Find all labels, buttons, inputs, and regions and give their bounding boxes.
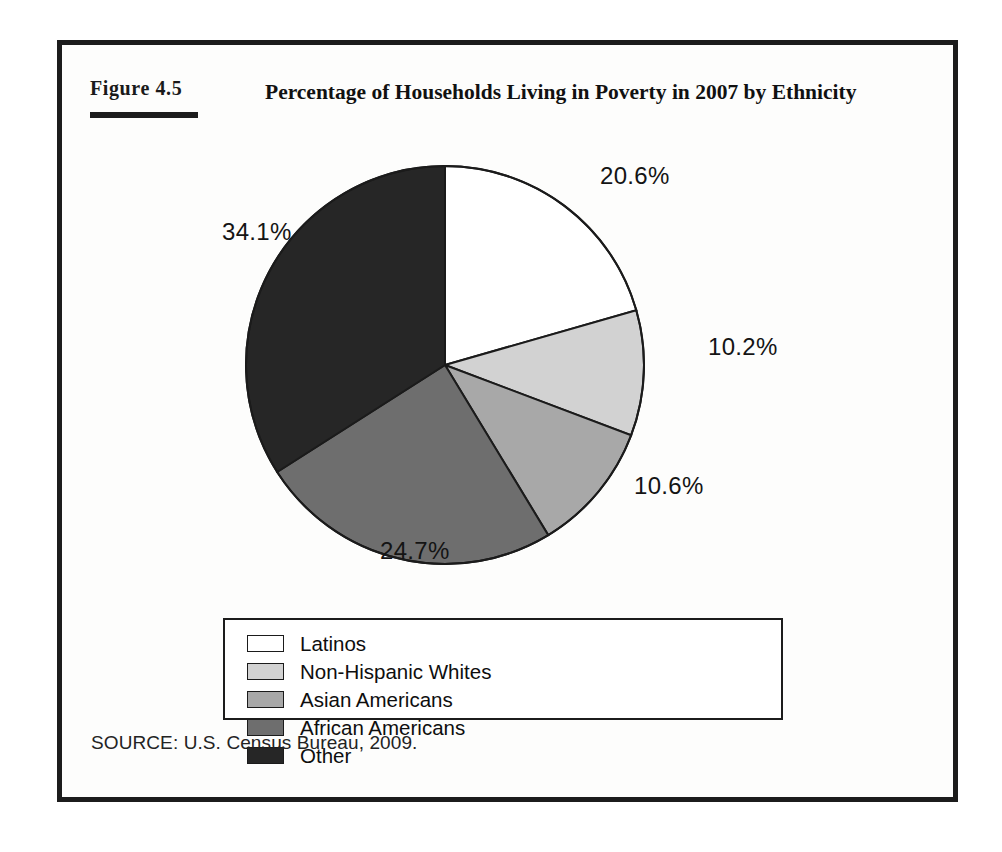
figure-frame: Figure 4.5 Percentage of Households Livi… [57, 40, 958, 802]
figure-rule-divider [90, 112, 198, 118]
figure-number-label: Figure 4.5 [90, 77, 265, 100]
pie-label-asian-americans: 10.6% [634, 472, 704, 500]
legend-swatch-latinos [247, 635, 284, 652]
figure-number: 4.5 [156, 77, 183, 99]
figure-header: Figure 4.5 Percentage of Households Livi… [90, 77, 923, 118]
pie-label-latinos: 20.6% [600, 162, 670, 190]
legend-label-asian-americans: Asian Americans [300, 688, 453, 712]
legend-swatch-non-hispanic-whites [247, 663, 284, 680]
figure-title: Percentage of Households Living in Pover… [265, 77, 856, 107]
legend-label-latinos: Latinos [300, 632, 366, 656]
pie-label-african-americans: 24.7% [380, 537, 450, 565]
pie-label-non-hispanic-whites: 10.2% [708, 333, 778, 361]
figure-label-block: Figure 4.5 [90, 77, 265, 118]
pie-chart-area: 20.6% 10.2% 10.6% 24.7% 34.1% [62, 145, 953, 625]
legend-item-asian-americans[interactable]: Asian Americans [247, 686, 515, 713]
legend-label-non-hispanic-whites: Non-Hispanic Whites [300, 660, 491, 684]
figure-word: Figure [90, 77, 150, 99]
chart-legend: Latinos Non-Hispanic Whites Asian Americ… [223, 618, 783, 720]
legend-item-non-hispanic-whites[interactable]: Non-Hispanic Whites [247, 658, 515, 685]
source-note: SOURCE: U.S. Census Bureau, 2009. [91, 732, 417, 754]
legend-item-latinos[interactable]: Latinos [247, 630, 515, 657]
pie-chart [235, 155, 655, 575]
legend-swatch-asian-americans [247, 691, 284, 708]
pie-label-other: 34.1% [222, 218, 292, 246]
